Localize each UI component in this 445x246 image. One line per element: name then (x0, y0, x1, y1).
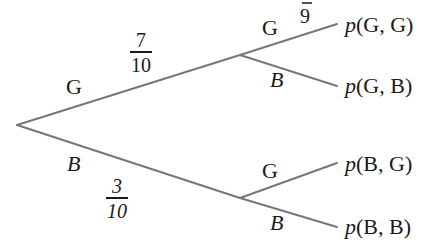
prob-g-g-partial: 9 (300, 6, 310, 26)
branch-g-g (240, 24, 337, 55)
branch-b-b (240, 198, 337, 227)
prob-symbol: p (345, 151, 356, 176)
prob-stage1-g-numerator: 7 (135, 30, 147, 50)
prob-symbol: p (345, 214, 356, 239)
label-g-b: B (270, 69, 283, 91)
outcome-text: (B, G) (356, 151, 412, 176)
outcome-g-b: p(G, B) (345, 75, 412, 97)
prob-symbol: p (345, 73, 356, 98)
fraction-bar (106, 197, 128, 199)
label-b-g: G (262, 160, 278, 182)
prob-symbol: p (345, 12, 356, 37)
label-b-b: B (270, 212, 283, 234)
outcome-text: (G, G) (356, 12, 413, 37)
label-stage1-b: B (67, 153, 80, 175)
prob-stage1-b-numerator: 3 (111, 176, 123, 196)
outcome-g-g: p(G, G) (345, 14, 413, 36)
branch-stage1-b (17, 125, 240, 198)
outcome-b-g: p(B, G) (345, 153, 412, 175)
branch-stage1-g (17, 55, 240, 125)
fraction-bar (130, 51, 152, 53)
branch-b-g (240, 163, 337, 198)
prob-stage1-g: 7 10 (130, 30, 152, 75)
outcome-text: (B, B) (356, 214, 411, 239)
prob-stage1-g-denominator: 10 (130, 55, 152, 75)
prob-stage1-b-denominator: 10 (106, 201, 128, 221)
branch-g-b (240, 55, 337, 86)
label-g-g: G (262, 17, 278, 39)
label-stage1-g: G (66, 76, 82, 98)
outcome-text: (G, B) (356, 73, 412, 98)
prob-stage1-b: 3 10 (106, 176, 128, 221)
outcome-b-b: p(B, B) (345, 216, 411, 238)
